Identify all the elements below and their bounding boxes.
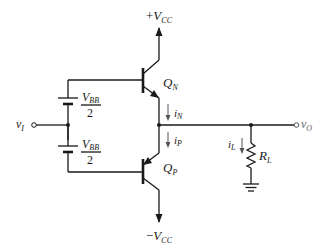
current-in: iN — [166, 104, 184, 121]
battery-top: VBB 2 — [58, 90, 101, 140]
svg-text:iN: iN — [174, 107, 183, 121]
ground-icon — [243, 184, 259, 191]
svg-text:RL: RL — [258, 148, 272, 165]
emitter-arrow-icon — [143, 157, 152, 165]
load-resistor: RL — [247, 125, 272, 184]
battery-bottom: VBB 2 — [58, 125, 101, 172]
negative-supply: −VCC — [146, 214, 173, 245]
emitter-arrow-icon — [150, 90, 159, 98]
transistor-qp: QP — [143, 125, 177, 222]
svg-text:VBB: VBB — [82, 90, 99, 105]
svg-text:QP: QP — [163, 160, 177, 177]
svg-text:2: 2 — [87, 153, 93, 167]
svg-text:+VCC: +VCC — [146, 8, 173, 25]
svg-text:QN: QN — [163, 75, 178, 92]
current-il: iL — [228, 138, 245, 154]
input-terminal: vI — [16, 117, 70, 133]
output-terminal: vO — [294, 117, 312, 133]
svg-text:vO: vO — [301, 117, 312, 133]
arrow-down-icon — [156, 214, 163, 223]
svg-text:vI: vI — [16, 117, 24, 133]
svg-text:iL: iL — [228, 138, 236, 152]
arrow-up-icon — [156, 27, 163, 36]
positive-supply: +VCC — [146, 8, 173, 60]
current-ip: iP — [166, 132, 183, 148]
svg-text:iP: iP — [174, 134, 182, 148]
circuit-diagram: +VCC QN VBB 2 vI VBB 2 — [0, 0, 322, 249]
svg-text:VBB: VBB — [82, 137, 99, 152]
svg-text:−VCC: −VCC — [146, 228, 173, 245]
svg-text:2: 2 — [87, 106, 93, 120]
